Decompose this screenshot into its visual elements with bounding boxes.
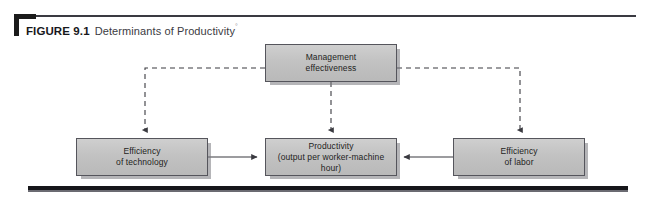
node-management-effectiveness-label: Management effectiveness <box>302 52 361 74</box>
figure-container: FIGURE 9.1Determinants of Productivity° <box>0 0 660 204</box>
header-rule <box>36 15 636 17</box>
bottom-rule-shadow <box>28 190 628 192</box>
node-efficiency-of-technology-label: Efficiency of technology <box>112 146 172 168</box>
edge-management-to-labor <box>397 68 520 130</box>
node-productivity[interactable]: Productivity (output per worker-machine … <box>265 138 397 176</box>
figure-number: FIGURE 9.1 <box>26 25 90 37</box>
page-title: Determinants of Productivity <box>95 25 235 37</box>
corner-bracket-horizontal <box>14 14 36 19</box>
node-efficiency-of-labor-label: Efficiency of labor <box>496 146 541 168</box>
node-efficiency-of-technology[interactable]: Efficiency of technology <box>76 138 208 176</box>
node-efficiency-of-labor[interactable]: Efficiency of labor <box>453 138 585 176</box>
node-productivity-label: Productivity (output per worker-machine … <box>266 141 396 174</box>
node-management-effectiveness[interactable]: Management effectiveness <box>265 44 397 82</box>
footnote-marker: ° <box>235 23 238 30</box>
edge-management-to-technology <box>145 68 265 130</box>
figure-caption: FIGURE 9.1Determinants of Productivity° <box>26 20 238 34</box>
